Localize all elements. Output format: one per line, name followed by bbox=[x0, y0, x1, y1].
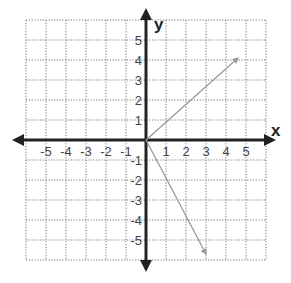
y-tick-label: 1 bbox=[135, 113, 142, 128]
y-tick-label: 4 bbox=[135, 53, 142, 68]
y-tick-label: 3 bbox=[135, 73, 142, 88]
y-tick-label: -3 bbox=[130, 193, 142, 208]
x-tick-label: 2 bbox=[182, 144, 189, 159]
x-tick-label: -4 bbox=[60, 144, 72, 159]
y-tick-label: -4 bbox=[130, 213, 142, 228]
y-tick-label: 2 bbox=[135, 93, 142, 108]
y-tick-label: 5 bbox=[135, 33, 142, 48]
x-tick-label: 4 bbox=[222, 144, 229, 159]
x-tick-label: 5 bbox=[242, 144, 249, 159]
x-tick-label: 3 bbox=[202, 144, 209, 159]
x-tick-label: -5 bbox=[40, 144, 52, 159]
y-tick-label: -2 bbox=[130, 173, 142, 188]
y-tick-label: -1 bbox=[130, 153, 142, 168]
x-axis-label: x bbox=[271, 121, 281, 140]
coordinate-plane: -5-4-3-2-11234554321-1-2-3-4-5 x y bbox=[0, 0, 291, 283]
axes bbox=[18, 14, 270, 266]
y-tick-label: -5 bbox=[130, 233, 142, 248]
y-axis-label: y bbox=[154, 15, 164, 34]
vector-1 bbox=[146, 58, 238, 140]
x-tick-label: 1 bbox=[162, 144, 169, 159]
x-tick-label: -3 bbox=[80, 144, 92, 159]
x-tick-label: -2 bbox=[100, 144, 112, 159]
vector-2 bbox=[146, 140, 206, 254]
